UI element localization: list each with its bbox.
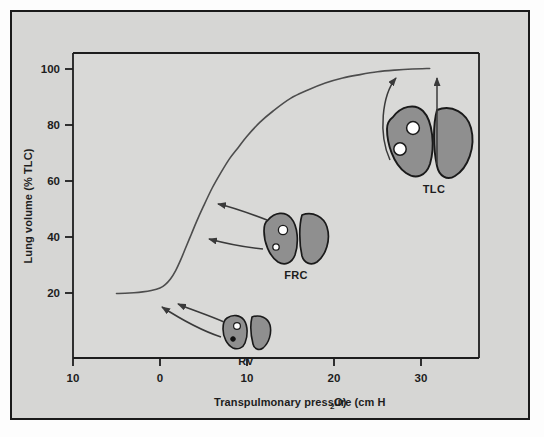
y-tick-label-40: 40 (47, 231, 60, 243)
y-tick-label-20: 20 (47, 287, 60, 299)
figure-frame: 100 80 60 40 20 Lung volume (% TLC) 10 0… (10, 10, 530, 420)
y-axis-ticks (65, 69, 73, 293)
y-tick-label-80: 80 (47, 119, 60, 131)
y-axis-title: Lung volume (% TLC) (22, 148, 34, 263)
figure-root: 100 80 60 40 20 Lung volume (% TLC) 10 0… (0, 0, 544, 437)
y-tick-label-60: 60 (47, 175, 60, 187)
x-tick-label-neg10: 10 (67, 372, 80, 384)
tlc-label: TLC (423, 183, 445, 195)
x-tick-label-30: 30 (415, 372, 428, 384)
x-tick-label-20: 20 (328, 372, 341, 384)
x-axis-title-end: O) (334, 396, 347, 408)
rv-alveolus-open (234, 323, 241, 330)
frc-alveolus-upper (278, 225, 287, 234)
frc-alveolus-lower (273, 244, 279, 250)
rv-label: RV (238, 355, 254, 367)
rv-alveolus-collapsed (231, 337, 236, 342)
tlc-alveolus-lower (394, 143, 406, 155)
pressure-volume-chart: 100 80 60 40 20 Lung volume (% TLC) 10 0… (12, 12, 528, 418)
tlc-alveolus-upper (407, 122, 420, 135)
frc-label: FRC (284, 269, 308, 281)
x-axis-title-main: Transpulmonary pressure (cm H (214, 396, 386, 408)
plot-area-background (73, 53, 479, 358)
y-tick-label-100: 100 (41, 63, 60, 75)
x-axis-title: Transpulmonary pressure (cm H 2 O) (214, 396, 386, 411)
x-tick-label-0: 0 (157, 372, 163, 384)
x-tick-label-10: 10 (241, 372, 254, 384)
